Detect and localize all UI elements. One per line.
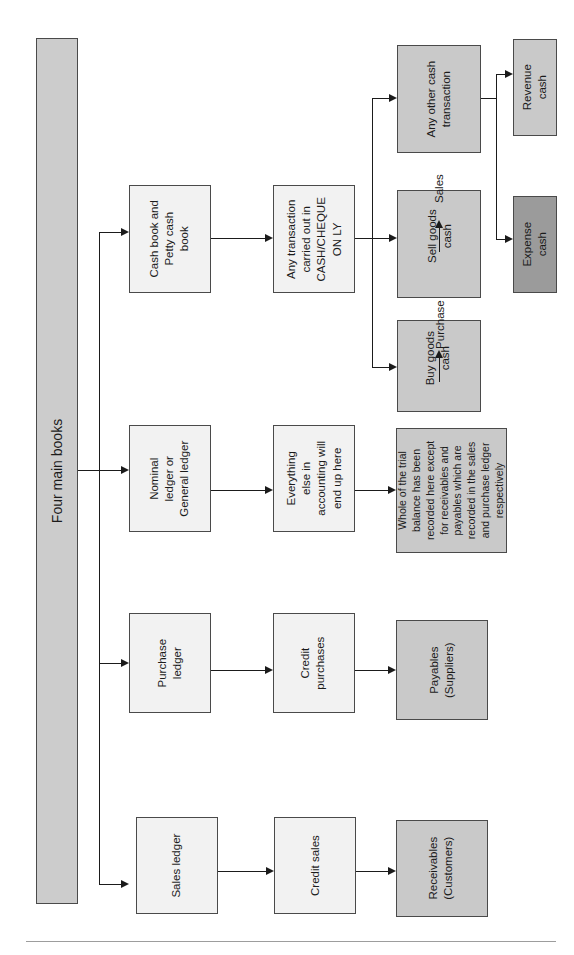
arrowhead-creditsales-to-receivables xyxy=(388,867,396,875)
node-nominal-ledger: Nominal ledger or General ledger xyxy=(129,425,211,532)
connector-cashbook-to-transaction xyxy=(211,238,266,239)
connector-everything-to-trialbalance xyxy=(355,490,389,491)
connector-sellgoods-sales-line xyxy=(439,228,440,252)
arrowhead-everything-to-trialbalance xyxy=(388,486,396,494)
node-four-main-books-label: Four main books xyxy=(49,419,65,523)
connector-creditsales-to-receivables xyxy=(356,871,389,872)
connector-transaction-stem xyxy=(355,238,373,239)
arrowhead-cashbook-to-transaction xyxy=(265,234,273,242)
connector-to-any-other-cash xyxy=(372,98,390,99)
arrowhead-purchaseledger-to-creditpurchases xyxy=(265,666,273,674)
arrowhead-any-other-cash xyxy=(389,94,397,102)
connector-root-stem xyxy=(78,470,100,471)
node-receivables-label: Receivables (Customers) xyxy=(427,837,457,900)
arrowhead-revenue-cash xyxy=(505,70,513,78)
node-revenue-cash: Revenue cash xyxy=(513,39,557,136)
connector-branch-purchase xyxy=(99,663,121,664)
connector-root-trunk xyxy=(99,232,100,884)
node-payables: Payables (Suppliers) xyxy=(396,620,488,720)
node-purchase-ledger-label: Purchase ledger xyxy=(155,639,185,688)
connector-to-buy-goods xyxy=(372,367,390,368)
node-sales-ledger-label: Sales ledger xyxy=(169,834,184,898)
arrowhead-nominal-to-everything xyxy=(265,486,273,494)
footer-divider xyxy=(26,941,556,942)
node-four-main-books: Four main books xyxy=(36,38,78,904)
node-credit-purchases-label: Credit purchases xyxy=(299,636,329,689)
node-credit-purchases: Credit purchases xyxy=(273,613,355,713)
node-trial-balance: Whole of the trial balance has been reco… xyxy=(396,428,507,553)
node-purchase-ledger: Purchase ledger xyxy=(129,613,211,713)
connector-branch-nominal xyxy=(99,470,121,471)
connector-creditpurchases-to-payables xyxy=(355,670,389,671)
node-credit-sales-label: Credit sales xyxy=(307,835,322,896)
connector-purchaseledger-to-creditpurchases xyxy=(211,670,266,671)
node-sales-ledger: Sales ledger xyxy=(136,817,218,914)
arrowhead-buygoods-to-purchase xyxy=(435,350,443,358)
connector-buygoods-to-purchase-line xyxy=(439,358,440,382)
node-any-other-cash-transaction: Any other cash transaction xyxy=(397,45,481,153)
node-nominal-ledger-label: Nominal ledger or General ledger xyxy=(147,440,193,516)
arrowhead-branch-sales xyxy=(121,880,129,888)
node-credit-sales: Credit sales xyxy=(274,817,356,914)
node-expense-cash-label: Expense cash xyxy=(520,222,550,267)
node-cash-book-label: Cash book and Petty cash book xyxy=(147,200,193,277)
node-payables-label: Payables (Suppliers) xyxy=(427,642,457,698)
arrowhead-sellgoods-to-sales xyxy=(435,220,443,228)
arrowhead-branch-cashbook xyxy=(121,228,129,236)
node-receivables: Receivables (Customers) xyxy=(396,820,488,917)
node-any-transaction-label: Any transaction carried out in CASH/CHEQ… xyxy=(284,197,345,281)
arrowhead-salesledger-to-creditsales xyxy=(266,867,274,875)
connector-anyothercash-trunk xyxy=(496,74,497,240)
connector-branch-cashbook xyxy=(99,232,121,233)
arrowhead-creditpurchases-to-payables xyxy=(388,666,396,674)
connector-salesledger-to-creditsales xyxy=(218,871,267,872)
node-revenue-cash-label: Revenue cash xyxy=(520,64,550,110)
node-trial-balance-label: Whole of the trial balance has been reco… xyxy=(396,436,507,545)
connector-to-sell-goods xyxy=(372,238,390,239)
node-everything-else-label: Everything else in accounting will end u… xyxy=(284,441,345,516)
arrowhead-branch-nominal xyxy=(121,466,129,474)
node-any-other-cash-transaction-label: Any other cash transaction xyxy=(424,61,454,138)
connector-anyothercash-stem xyxy=(481,98,497,99)
node-sales-label: Sales xyxy=(432,159,447,219)
arrowhead-expense-cash xyxy=(505,235,513,243)
connector-nominal-to-everything xyxy=(211,490,266,491)
connector-branch-sales xyxy=(99,884,121,885)
arrowhead-buy-goods xyxy=(389,363,397,371)
node-cash-book: Cash book and Petty cash book xyxy=(129,185,211,293)
arrowhead-sell-goods xyxy=(389,234,397,242)
node-everything-else: Everything else in accounting will end u… xyxy=(273,425,355,532)
node-expense-cash: Expense cash xyxy=(513,196,557,293)
connector-transaction-trunk xyxy=(372,98,373,368)
arrowhead-branch-purchase xyxy=(121,659,129,667)
flowchart-canvas: Four main books Cash book and Petty cash… xyxy=(0,0,574,955)
node-any-transaction: Any transaction carried out in CASH/CHEQ… xyxy=(273,185,355,293)
